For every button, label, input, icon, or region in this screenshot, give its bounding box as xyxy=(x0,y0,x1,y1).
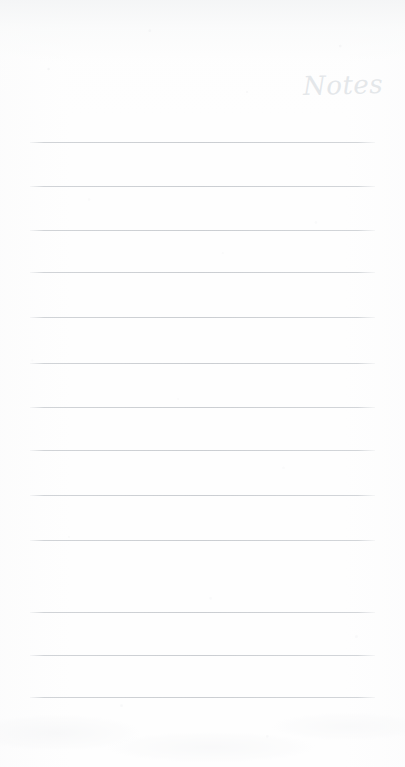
rule-line xyxy=(30,612,375,613)
rule-line xyxy=(30,540,375,541)
rule-line xyxy=(30,230,375,231)
rule-line xyxy=(30,363,375,364)
rule-line xyxy=(30,142,375,143)
rule-line xyxy=(30,655,375,656)
rule-line xyxy=(30,697,375,698)
rule-line xyxy=(30,186,375,187)
rule-lines-container xyxy=(0,0,405,767)
rule-line xyxy=(30,272,375,273)
rule-line xyxy=(30,407,375,408)
rule-line xyxy=(30,317,375,318)
rule-line xyxy=(30,450,375,451)
rule-line xyxy=(30,495,375,496)
notepad-page: Notes xyxy=(0,0,405,767)
